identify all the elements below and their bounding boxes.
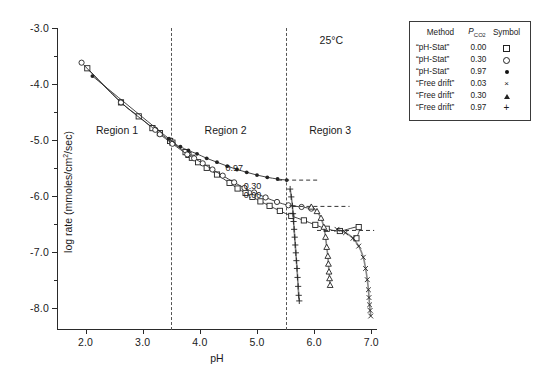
legend-header-method: Method — [416, 27, 465, 42]
y-tick-label: -4.0 — [30, 78, 49, 90]
legend-symbol — [489, 42, 524, 54]
figure-container: -3.0-4.0-5.0-6.0-7.0-8.02.03.04.05.06.07… — [0, 0, 542, 384]
legend-symbol — [489, 90, 524, 102]
legend-header-symbol: Symbol — [489, 27, 524, 42]
x-tick-label: 4.0 — [192, 336, 207, 348]
legend-pco2: 0.97 — [465, 66, 489, 78]
y-tick-label: -7.0 — [30, 246, 49, 258]
legend-method: “pH-Stat” — [416, 66, 465, 78]
legend-method: “Free drift” — [416, 78, 465, 90]
plot-area: -3.0-4.0-5.0-6.0-7.0-8.02.03.04.05.06.07… — [57, 28, 377, 330]
region-label: Region 3 — [309, 124, 351, 136]
x-tick-label: 5.0 — [249, 336, 264, 348]
y-tick-label: -3.0 — [30, 22, 49, 34]
y-tick-label: -8.0 — [30, 302, 49, 314]
legend-pco2: 0.30 — [465, 54, 489, 66]
legend-pco2: 0.97 — [465, 102, 489, 114]
legend-row: “pH-Stat”0.30 — [416, 54, 524, 66]
legend-pco2: 0.03 — [465, 78, 489, 90]
legend-row: “Free drift”0.03× — [416, 78, 524, 90]
x-tick-label: 3.0 — [135, 336, 150, 348]
legend-symbol: × — [489, 78, 524, 90]
curve-label: 0.97 — [225, 163, 243, 173]
x-tick-label: 7.0 — [364, 336, 379, 348]
legend-pco2: 0.00 — [465, 42, 489, 54]
legend-row: “pH-Stat”0.97 — [416, 66, 524, 78]
series-open-triangle — [308, 204, 333, 287]
legend-method: “pH-Stat” — [416, 54, 465, 66]
legend-row: “Free drift”0.30 — [416, 90, 524, 102]
curve-label: 0.00 — [244, 190, 262, 200]
legend-header-row: Method PCO2 Symbol — [416, 27, 524, 42]
x-axis-title: pH — [210, 352, 223, 364]
legend-symbol — [489, 66, 524, 78]
legend-symbol: + — [489, 102, 524, 114]
legend-body: “pH-Stat”0.00“pH-Stat”0.30“pH-Stat”0.97“… — [416, 42, 524, 114]
y-tick-label: -5.0 — [30, 134, 49, 146]
cross-x-icon: × — [504, 80, 509, 88]
legend-box: Method PCO2 Symbol “pH-Stat”0.00“pH-Stat… — [409, 21, 531, 121]
legend-symbol — [489, 54, 524, 66]
filled-circle-icon — [505, 70, 509, 74]
legend-table: Method PCO2 Symbol “pH-Stat”0.00“pH-Stat… — [416, 27, 524, 114]
data-series-layer — [57, 28, 377, 330]
legend-method: “Free drift” — [416, 90, 465, 102]
y-tick-label: -6.0 — [30, 190, 49, 202]
region-label: Region 2 — [205, 124, 247, 136]
legend-row: “Free drift”0.97+ — [416, 102, 524, 114]
open-circle-icon — [503, 57, 510, 64]
x-tick-label: 6.0 — [307, 336, 322, 348]
legend-method: “Free drift” — [416, 102, 465, 114]
legend-pco2: 0.30 — [465, 90, 489, 102]
y-axis-title: log rate (mmoles/cm2/sec) — [62, 131, 75, 253]
open-triangle-icon — [504, 94, 510, 99]
region-label: Region 1 — [96, 124, 138, 136]
x-tick-label: 2.0 — [78, 336, 93, 348]
legend-method: “pH-Stat” — [416, 42, 465, 54]
temperature-annotation: 25°C — [320, 34, 343, 46]
legend-header-pco2: PCO2 — [465, 27, 489, 42]
open-square-icon — [503, 45, 510, 52]
legend-row: “pH-Stat”0.00 — [416, 42, 524, 54]
plus-icon: + — [504, 104, 510, 112]
